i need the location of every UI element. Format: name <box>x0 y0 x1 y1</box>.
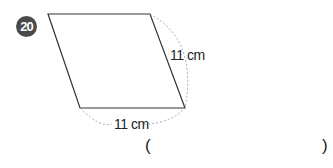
answer-close-paren: ) <box>322 136 328 156</box>
parallelogram-shape <box>48 14 185 108</box>
answer-open-paren: ( <box>145 136 151 156</box>
right-side-length-label: 11 cm <box>170 47 205 63</box>
answer-blank[interactable] <box>160 138 315 158</box>
bottom-side-length-label: 11 cm <box>114 116 149 132</box>
